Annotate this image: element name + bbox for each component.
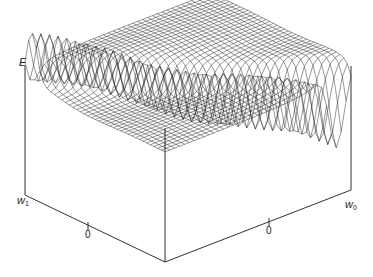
wireframe-mesh (25, 0, 351, 152)
w1-zero-tick-label: 0 (85, 229, 91, 240)
surface-plot (0, 0, 373, 277)
w0-zero-tick-label: 0 (266, 225, 272, 236)
w1-axis-label: w1 (17, 194, 29, 207)
w0-axis (165, 190, 351, 262)
e-axis-label: E (19, 56, 26, 68)
w0-axis-label: w0 (345, 198, 357, 211)
w1-axis (25, 195, 165, 262)
